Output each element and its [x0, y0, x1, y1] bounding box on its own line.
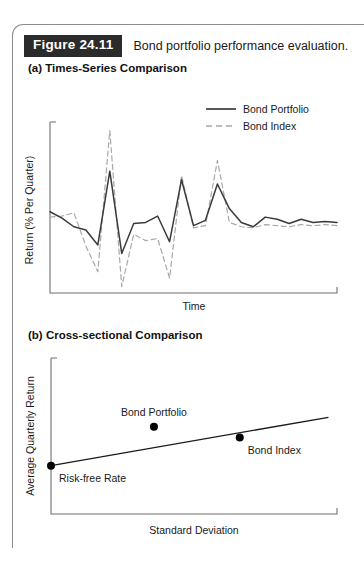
data-point-label-risk-free-rate: Risk-free Rate — [59, 472, 126, 484]
panel-a-title: (a) Times-Series Comparison — [28, 62, 187, 74]
bond-portfolio-line — [50, 171, 337, 253]
times-series-chart: Return (% Per Quarter) Time Bond Portfol… — [20, 82, 350, 320]
data-point-label-bond-index: Bond Index — [248, 444, 302, 456]
chart-a-y-axis-label: Return (% Per Quarter) — [23, 156, 35, 265]
chart-a-legend: Bond Portfolio Bond Index — [206, 103, 309, 132]
chart-a-x-axis-label: Time — [183, 300, 206, 312]
figure-header: Figure 24.11 Bond portfolio performance … — [24, 34, 346, 58]
data-point-bond-index — [236, 434, 244, 442]
data-point-label-bond-portfolio: Bond Portfolio — [121, 406, 187, 418]
chart-b-axes — [51, 358, 337, 514]
cross-sectional-chart: Risk-free RateBond PortfolioBond Index A… — [20, 348, 350, 544]
legend-label-bond-portfolio: Bond Portfolio — [243, 103, 309, 115]
chart-a-y-axis — [50, 122, 337, 293]
market-line — [51, 417, 328, 465]
cross-sectional-svg: Risk-free RateBond PortfolioBond Index A… — [20, 348, 350, 544]
panel-b-title: (b) Cross-sectional Comparison — [28, 329, 202, 341]
data-point-risk-free-rate — [47, 462, 55, 470]
chart-b-x-axis-label: Standard Deviation — [149, 524, 238, 536]
figure-number-badge: Figure 24.11 — [24, 35, 122, 57]
times-series-svg: Return (% Per Quarter) Time Bond Portfol… — [20, 82, 350, 320]
legend-label-bond-index: Bond Index — [243, 120, 297, 132]
figure-caption: Bond portfolio performance evaluation. — [133, 39, 348, 53]
chart-b-y-axis-label: Average Quarterly Return — [24, 376, 36, 496]
bond-index-line — [50, 131, 337, 287]
data-point-bond-portfolio — [150, 423, 158, 431]
